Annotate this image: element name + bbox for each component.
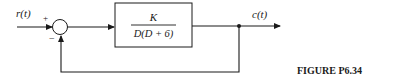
plus-sign: +	[43, 13, 48, 23]
block-denominator: D(D + 6)	[133, 28, 174, 40]
input-label: r(t)	[16, 7, 31, 20]
summing-junction	[53, 20, 68, 35]
block-numerator: K	[149, 11, 158, 23]
figure-caption: FIGURE P6.34	[297, 65, 362, 76]
block-diagram: r(t) + − K D(D + 6) c(t) FIGURE P6.34	[0, 0, 399, 81]
output-label: c(t)	[252, 8, 268, 21]
minus-sign: −	[49, 33, 55, 44]
